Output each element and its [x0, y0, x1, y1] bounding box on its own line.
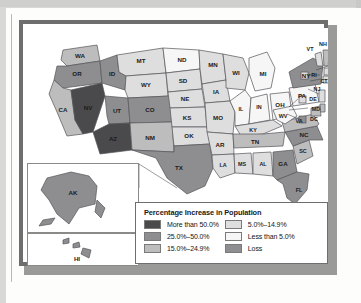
map-label-ID: ID — [109, 70, 116, 77]
map-label-OR: OR — [72, 70, 82, 77]
legend-item-15-249[interactable]: 15.0%–24.9% — [144, 244, 219, 253]
legend-label-gt50: More than 50.0% — [167, 221, 219, 228]
map-label-CT: CT — [320, 78, 328, 84]
legend-label-25-50: 25.0%–50.0% — [167, 233, 210, 240]
map-label-NJ: NJ — [314, 86, 321, 92]
legend-item-loss[interactable]: Loss — [225, 244, 295, 253]
legend-item-gt50[interactable]: More than 50.0% — [144, 220, 219, 229]
map-label-WA: WA — [75, 52, 85, 59]
legend-swatch-lt5 — [225, 232, 242, 241]
alaska-inset-box — [27, 163, 139, 233]
map-label-LA: LA — [219, 162, 226, 168]
legend-item-25-50[interactable]: 25.0%–50.0% — [144, 232, 219, 241]
map-label-AL: AL — [259, 161, 267, 167]
map-label-VA: VA — [295, 118, 302, 124]
map-label-RI: RI — [311, 72, 317, 78]
legend-label-loss: Loss — [248, 245, 262, 252]
map-label-SC: SC — [299, 148, 307, 154]
map-label-DC: DC — [310, 116, 318, 122]
legend-label-5-149: 5.0%–14.9% — [248, 221, 287, 228]
map-label-DE: DE — [309, 96, 317, 102]
map-label-MN: MN — [208, 61, 218, 68]
legend-swatch-5-149 — [225, 220, 242, 229]
map-label-NC: NC — [300, 131, 309, 138]
map-plate: .gt50{fill:#4a4a4d;} .p25_50{fill:#8e8e9… — [27, 28, 328, 266]
map-label-UT: UT — [113, 107, 121, 114]
map-label-MT: MT — [137, 57, 146, 64]
map-legend: Percentage Increase in Population More t… — [135, 202, 328, 264]
legend-column-right: 5.0%–14.9% Less than 5.0% Loss — [225, 220, 295, 253]
map-label-KY: KY — [249, 127, 257, 133]
map-label-WY: WY — [141, 81, 152, 88]
map-label-AZ: AZ — [109, 135, 117, 142]
map-label-PA: PA — [298, 92, 307, 99]
map-label-TN: TN — [251, 138, 260, 145]
map-label-IA: IA — [213, 88, 220, 95]
legend-title: Percentage Increase in Population — [144, 208, 320, 217]
map-label-MO: MO — [213, 114, 223, 121]
figure-frame: .gt50{fill:#4a4a4d;} .p25_50{fill:#8e8e9… — [19, 20, 328, 266]
legend-label-lt5: Less than 5.0% — [248, 233, 295, 240]
legend-swatch-15-249 — [144, 244, 161, 253]
map-label-NV: NV — [84, 104, 93, 111]
hawaii-inset-box — [27, 233, 139, 266]
map-label-OK: OK — [184, 132, 194, 139]
map-label-MI: MI — [260, 70, 267, 77]
map-label-MD: MD — [312, 106, 320, 112]
map-label-FL: FL — [296, 187, 303, 193]
legend-item-5-149[interactable]: 5.0%–14.9% — [225, 220, 295, 229]
map-label-NM: NM — [145, 134, 155, 141]
map-label-IN: IN — [256, 104, 261, 110]
map-label-MS: MS — [238, 161, 246, 167]
map-label-ND: ND — [178, 56, 187, 63]
map-label-NH: NH — [319, 41, 327, 47]
map-label-WV: WV — [279, 113, 288, 119]
map-label-WI: WI — [232, 69, 240, 76]
map-figure: .gt50{fill:#4a4a4d;} .p25_50{fill:#8e8e9… — [19, 20, 337, 275]
page-gutter-rule — [11, 14, 12, 282]
legend-label-15-249: 15.0%–24.9% — [167, 245, 210, 252]
map-label-VT: VT — [307, 46, 315, 52]
map-label-IL: IL — [239, 106, 244, 112]
map-label-SD: SD — [179, 77, 188, 84]
legend-swatch-25-50 — [144, 232, 161, 241]
map-label-OH: OH — [275, 101, 285, 108]
page-top-margin — [0, 0, 361, 7]
map-label-GA: GA — [278, 160, 288, 167]
legend-column-left: More than 50.0% 25.0%–50.0% 15.0%–24.9% — [144, 220, 219, 253]
map-label-NY: NY — [302, 72, 311, 79]
map-label-AR: AR — [216, 141, 225, 148]
map-label-KS: KS — [183, 114, 192, 121]
map-label-TX: TX — [175, 164, 184, 171]
legend-item-lt5[interactable]: Less than 5.0% — [225, 232, 295, 241]
state-MA[interactable] — [324, 68, 328, 75]
map-label-CA: CA — [59, 106, 68, 113]
map-label-NE: NE — [181, 95, 190, 102]
legend-swatch-gt50 — [144, 220, 161, 229]
map-label-CO: CO — [145, 106, 154, 113]
legend-swatch-loss — [225, 244, 242, 253]
